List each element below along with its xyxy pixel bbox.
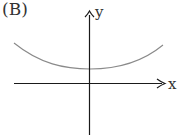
y-axis-label: y xyxy=(94,3,104,21)
graph: x y xyxy=(0,0,177,135)
x-axis-label: x xyxy=(168,75,177,93)
curve xyxy=(14,43,163,69)
